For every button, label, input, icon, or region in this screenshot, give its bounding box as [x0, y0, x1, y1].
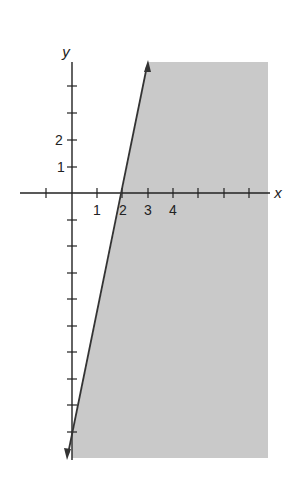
x-tick-label-3: 3	[144, 202, 152, 218]
graph-inequality: y x 1 2 3 4 1 2	[0, 0, 295, 479]
shaded-region	[72, 62, 268, 458]
x-axis-label: x	[273, 184, 282, 201]
x-tick-label-4: 4	[169, 202, 177, 218]
y-axis-label: y	[61, 43, 71, 60]
y-tick-label-1: 1	[57, 159, 65, 175]
x-tick-label-1: 1	[93, 202, 101, 218]
y-tick-label-2: 2	[55, 132, 63, 148]
arrowhead-bottom-icon	[64, 448, 71, 460]
x-tick-label-2: 2	[119, 202, 127, 218]
